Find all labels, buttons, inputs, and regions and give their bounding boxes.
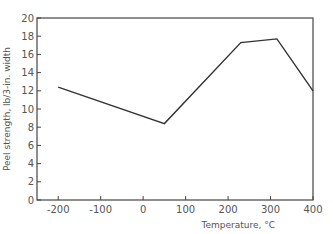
- x-tick-label: 0: [140, 204, 146, 215]
- y-axis: 02468101214161820: [21, 13, 41, 206]
- y-tick-label: 12: [21, 85, 34, 96]
- y-tick-label: 18: [21, 31, 34, 42]
- data-line: [58, 39, 313, 124]
- y-tick-label: 8: [28, 122, 34, 133]
- x-tick-label: -200: [47, 204, 70, 215]
- y-axis-title: Peel strength, lb/3-in. width: [2, 47, 12, 171]
- y-tick-label: 4: [28, 158, 34, 169]
- y-tick-label: 10: [21, 104, 34, 115]
- x-axis-title: Temperature, °C: [200, 220, 275, 230]
- plot-border: [37, 18, 313, 200]
- y-tick-label: 20: [21, 13, 34, 24]
- x-tick-label: 200: [219, 204, 238, 215]
- peel-strength-chart: 02468101214161820 -200-1000100200300400 …: [0, 0, 333, 234]
- x-tick-label: 400: [303, 204, 322, 215]
- x-tick-label: -100: [89, 204, 112, 215]
- y-tick-label: 14: [21, 67, 34, 78]
- plot-frame: [37, 18, 313, 200]
- y-tick-label: 2: [28, 176, 34, 187]
- x-axis: -200-1000100200300400: [47, 196, 323, 215]
- y-tick-label: 0: [28, 195, 34, 206]
- x-tick-label: 100: [176, 204, 195, 215]
- x-tick-label: 300: [261, 204, 280, 215]
- y-tick-label: 16: [21, 49, 34, 60]
- y-tick-label: 6: [28, 140, 34, 151]
